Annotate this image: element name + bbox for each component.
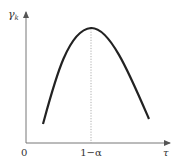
- x-axis-label: τ: [163, 147, 169, 158]
- peak-x-label: 1−α: [80, 147, 102, 158]
- y-axis-label: γk: [8, 8, 19, 22]
- origin-label: 0: [21, 147, 27, 158]
- gamma-curve: [43, 28, 149, 124]
- diagram-canvas: γk 0 1−α τ: [0, 0, 186, 162]
